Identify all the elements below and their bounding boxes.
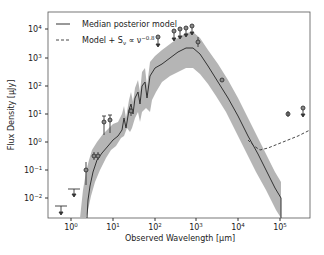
svg-text:105: 105	[273, 222, 287, 232]
svg-text:104: 104	[28, 24, 42, 34]
svg-text:103: 103	[189, 222, 203, 232]
svg-text:10−1: 10−1	[24, 165, 42, 175]
svg-text:100: 100	[64, 222, 78, 232]
svg-text:101: 101	[106, 222, 120, 232]
legend-solid-label: Median posterior model	[82, 20, 177, 29]
svg-text:10−2: 10−2	[24, 193, 42, 203]
sed-chart: 104 103 102 101 100 10−1 10−2 Flux Densi…	[0, 0, 324, 255]
svg-text:100: 100	[28, 137, 42, 147]
svg-text:102: 102	[28, 81, 42, 91]
svg-text:102: 102	[148, 222, 162, 232]
y-axis-label: Flux Density [μJy]	[7, 80, 16, 151]
svg-text:101: 101	[28, 109, 42, 119]
x-axis-label: Observed Wavelength [μm]	[125, 234, 235, 243]
svg-text:103: 103	[28, 53, 42, 63]
x-axis: 100 101 102 103 104 105	[64, 218, 287, 232]
svg-text:104: 104	[231, 222, 245, 232]
y-axis: 104 103 102 101 100 10−1 10−2	[24, 24, 48, 203]
